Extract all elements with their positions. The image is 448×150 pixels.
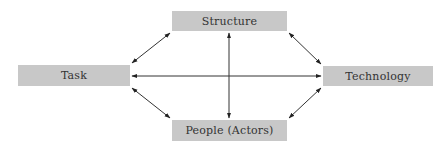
node-structure-label: Structure	[202, 15, 258, 28]
node-task-label: Task	[61, 69, 87, 82]
arrow-structure-technology	[289, 33, 321, 64]
arrow-task-structure	[132, 33, 170, 63]
diamond-diagram: Structure Task Technology People (Actors…	[0, 0, 448, 150]
node-people-label: People (Actors)	[185, 124, 273, 137]
node-people: People (Actors)	[172, 120, 287, 141]
node-technology: Technology	[323, 66, 433, 86]
arrow-people-technology	[289, 88, 321, 118]
node-task: Task	[18, 65, 130, 86]
node-technology-label: Technology	[345, 70, 410, 83]
arrow-task-people	[132, 88, 170, 118]
node-structure: Structure	[172, 11, 287, 31]
